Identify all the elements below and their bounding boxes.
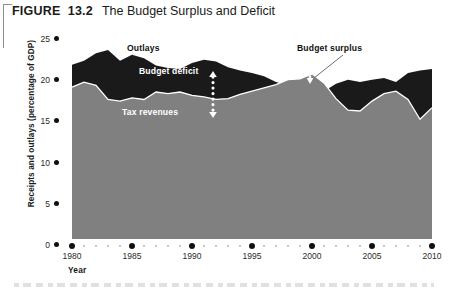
x-tick-label-2010: 2010 xyxy=(412,251,452,261)
x-tick-dot-2010 xyxy=(429,243,435,249)
x-tick-label-1985: 1985 xyxy=(112,251,152,261)
budget-surplus-arrow xyxy=(307,55,343,84)
annotation-tax-revenues: Tax revenues xyxy=(122,107,178,117)
page-footer-smudge xyxy=(14,283,434,287)
plot-area xyxy=(0,22,454,272)
x-tick-dot-2005 xyxy=(369,243,375,249)
x-tick-label-2000: 2000 xyxy=(292,251,332,261)
x-tick-dot-1990 xyxy=(189,243,195,249)
figure-title: The Budget Surplus and Deficit xyxy=(102,4,275,18)
x-tick-label-1995: 1995 xyxy=(232,251,272,261)
x-tick-dot-2000 xyxy=(309,243,315,249)
x-axis-title: Year xyxy=(68,265,87,275)
x-tick-label-1990: 1990 xyxy=(172,251,212,261)
x-tick-label-1980: 1980 xyxy=(52,251,92,261)
annotation-budget-deficit: Budget deficit xyxy=(139,66,198,76)
x-tick-dot-1980 xyxy=(69,243,75,249)
x-tick-label-2005: 2005 xyxy=(352,251,392,261)
figure-number: FIGURE 13.2 xyxy=(12,4,93,18)
x-tick-dot-1985 xyxy=(129,243,135,249)
chart-frame: Receipts and outlays (percentage of GDP)… xyxy=(0,22,454,272)
annotation-budget-surplus: Budget surplus xyxy=(297,43,362,53)
annotation-outlays: Outlays xyxy=(127,43,160,53)
figure-header: FIGURE 13.2 The Budget Surplus and Defic… xyxy=(0,0,454,22)
x-tick-dot-1995 xyxy=(249,243,255,249)
